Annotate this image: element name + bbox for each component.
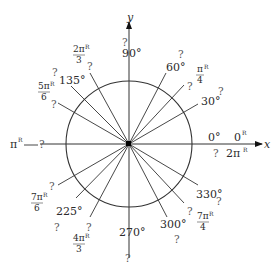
- label-45-sup: R: [204, 63, 209, 70]
- label-150-den: 6: [41, 92, 47, 102]
- label-0-radian: 0: [234, 131, 241, 144]
- label-315-den: 4: [200, 222, 206, 232]
- label-225-degree: 225°: [56, 205, 83, 218]
- label-120-den: 3: [76, 55, 82, 65]
- label-150-num: 5π: [38, 81, 50, 91]
- label-210-num: 7π: [31, 192, 43, 202]
- label-225-unknown: ?: [54, 221, 60, 233]
- label-45-den: 4: [197, 75, 203, 85]
- label-0-unknown: ?: [213, 147, 219, 159]
- label-240-num: 4π: [73, 233, 85, 243]
- label-315-num: 7π: [197, 211, 209, 221]
- x-axis-label: x: [264, 138, 271, 151]
- label-120-sup: R: [85, 43, 90, 50]
- label-0-radian-sup: R: [242, 129, 247, 136]
- label-150-unknown: ?: [51, 98, 57, 110]
- label-240-sup: R: [85, 232, 90, 239]
- label-90-degree: 90°: [122, 47, 142, 60]
- label-45-num: π: [197, 64, 203, 74]
- label-135-degree: 135°: [59, 74, 86, 87]
- label-135-unknown: ?: [52, 66, 58, 78]
- label-180-radian: π: [10, 138, 17, 151]
- label-0-degree: 0°: [208, 131, 221, 144]
- label-330-unknown: ?: [216, 195, 222, 207]
- label-300-degree: 300°: [160, 218, 187, 231]
- label-30-unknown: ?: [218, 85, 224, 97]
- label-180-unknown: ?: [39, 138, 45, 150]
- label-2pi-radian: 2π: [226, 147, 240, 160]
- label-120-unknown: ?: [87, 60, 93, 72]
- origin-point: [126, 141, 131, 146]
- label-210-sup: R: [43, 191, 48, 198]
- label-270-degree: 270°: [119, 226, 146, 239]
- label-300-unknown: ?: [174, 233, 180, 245]
- label-210-unknown: ?: [49, 180, 55, 192]
- label-2pi-radian-sup: R: [243, 146, 248, 153]
- label-240-den: 3: [76, 244, 82, 254]
- label-315-sup: R: [209, 210, 214, 217]
- label-120-num: 2π: [73, 44, 85, 54]
- unit-circle-diagram: x y 0° 0 R ? 2π: [0, 0, 274, 267]
- label-150-sup: R: [50, 80, 55, 87]
- label-270-unknown: ?: [125, 252, 131, 264]
- label-180-sup: R: [18, 136, 23, 143]
- label-315-unknown: ?: [187, 205, 193, 217]
- label-45-unknown: ?: [187, 80, 193, 92]
- label-210-den: 6: [34, 203, 40, 213]
- label-60-degree: 60°: [166, 61, 186, 74]
- y-axis-label: y: [126, 11, 134, 24]
- label-60-unknown: ?: [178, 48, 184, 60]
